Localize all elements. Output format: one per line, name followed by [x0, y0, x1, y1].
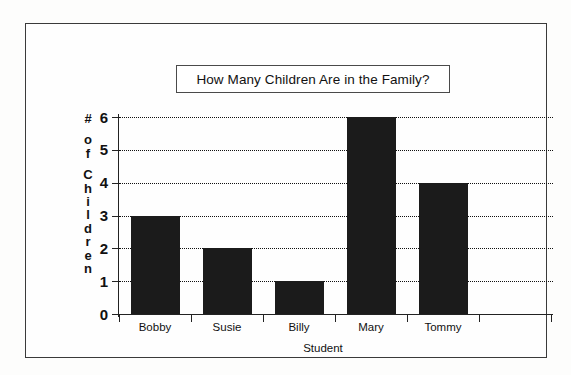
x-axis-tick-label: Tommy [407, 321, 479, 333]
bar [275, 281, 324, 314]
x-axis-tick [479, 314, 480, 322]
gridline [119, 117, 553, 118]
bar [203, 248, 252, 314]
chart-title-box: How Many Children Are in the Family? [176, 65, 450, 93]
y-axis-tick-label: 6 [86, 110, 108, 125]
y-axis-title-char: d [78, 222, 98, 235]
gridline [119, 216, 553, 217]
gridline [119, 281, 553, 282]
y-axis-tick-label: 5 [86, 142, 108, 157]
y-axis-tick-label: 1 [86, 274, 108, 289]
gridline [119, 150, 553, 151]
x-axis-tick-label: Susie [191, 321, 263, 333]
gridline [119, 183, 553, 184]
bar [131, 216, 180, 315]
y-axis-tick-label: 3 [86, 208, 108, 223]
y-axis-title-char: i [78, 195, 98, 208]
bar [419, 183, 468, 314]
bar [347, 117, 396, 314]
y-axis-tick-label: 4 [86, 175, 108, 190]
scanned-page: How Many Children Are in the Family? # o… [0, 0, 571, 375]
plot-area [119, 117, 553, 314]
figure-frame: How Many Children Are in the Family? # o… [25, 23, 547, 358]
x-axis-tick-label: Mary [335, 321, 407, 333]
y-axis-tick [112, 281, 119, 282]
x-axis-tick-label: Billy [263, 321, 335, 333]
x-axis-tick [551, 314, 552, 322]
y-axis-tick [112, 183, 119, 184]
gridline [119, 248, 553, 249]
x-axis-tick-label: Bobby [119, 321, 191, 333]
y-axis-tick [112, 117, 119, 118]
y-axis-tick [112, 216, 119, 217]
x-axis-title: Student [263, 342, 383, 354]
y-axis-tick-label: 0 [86, 307, 108, 322]
chart-title: How Many Children Are in the Family? [196, 72, 429, 87]
y-axis-tick [112, 314, 119, 315]
y-axis-tick [112, 150, 119, 151]
y-axis-tick [112, 248, 119, 249]
y-axis-tick-label: 2 [86, 241, 108, 256]
